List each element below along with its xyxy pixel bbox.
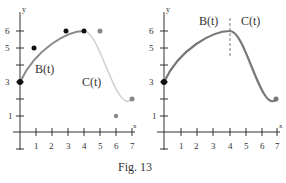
figure-caption: Fig. 13 <box>118 160 152 175</box>
svg-text:6: 6 <box>260 141 265 151</box>
svg-text:5: 5 <box>244 141 249 151</box>
left-b-label: B(t) <box>35 62 54 76</box>
left-y-axis-label: y <box>22 5 26 14</box>
svg-text:2: 2 <box>49 141 54 151</box>
left-y-tick-3: 3 <box>5 77 10 87</box>
joined-curve <box>164 31 277 101</box>
svg-text:4: 4 <box>82 141 87 151</box>
svg-text:1: 1 <box>179 141 184 151</box>
svg-text:7: 7 <box>275 141 280 151</box>
b-control-points <box>17 29 87 86</box>
right-y-axis-label: y <box>166 5 170 14</box>
left-y-tick-1: 1 <box>8 111 13 121</box>
svg-text:3: 3 <box>66 141 71 151</box>
left-panel: y x 6 5 3 1 1 2 3 4 5 6 7 <box>5 5 137 151</box>
right-y-tick-6: 6 <box>149 26 154 36</box>
c-control-points <box>98 29 135 119</box>
svg-text:7: 7 <box>130 141 135 151</box>
left-c-curve <box>84 31 132 101</box>
right-x-axis-label: x <box>279 122 283 130</box>
svg-text:5: 5 <box>98 141 103 151</box>
right-b-label: B(t) <box>199 14 218 28</box>
left-c-label: C(t) <box>82 75 101 89</box>
left-x-axis-label: x <box>133 122 137 130</box>
right-x-tick-labels: 1 2 3 4 5 6 7 <box>179 141 280 151</box>
right-start-point <box>161 79 167 85</box>
svg-text:4: 4 <box>228 141 233 151</box>
left-x-tick-labels: 1 2 3 4 5 6 7 <box>34 141 135 151</box>
right-end-point <box>274 97 279 102</box>
svg-text:6: 6 <box>114 141 119 151</box>
svg-text:2: 2 <box>194 141 199 151</box>
right-panel: y x 6 5 3 1 1 2 3 4 5 6 7 B(t) C(t) <box>149 5 283 151</box>
right-y-tick-1: 1 <box>152 111 157 121</box>
right-c-label: C(t) <box>241 14 260 28</box>
left-y-tick-5: 5 <box>5 43 10 53</box>
left-y-tick-6: 6 <box>5 26 10 36</box>
figure-canvas: y x 6 5 3 1 1 2 3 4 5 6 7 <box>0 0 286 183</box>
svg-text:1: 1 <box>34 141 39 151</box>
right-y-tick-5: 5 <box>149 43 154 53</box>
right-y-tick-3: 3 <box>149 77 154 87</box>
svg-text:3: 3 <box>211 141 216 151</box>
